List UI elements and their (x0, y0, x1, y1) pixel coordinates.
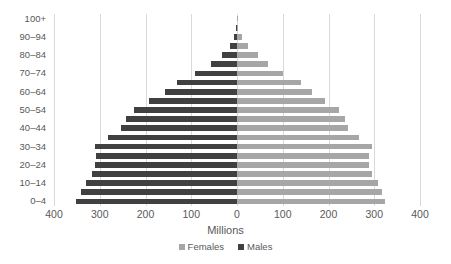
x-axis-label-2: 200 (137, 208, 155, 221)
bar-male-55–59 (149, 98, 237, 104)
legend-item-females[interactable]: Females (179, 241, 224, 252)
bar-male-75–79 (211, 61, 237, 67)
x-axis-label-3: 100 (182, 208, 200, 221)
bar-row (54, 171, 420, 177)
bar-row (54, 25, 420, 31)
bar-female-5–9 (237, 189, 382, 195)
bar-male-70–74 (195, 71, 237, 77)
x-axis-title: Millions (0, 224, 451, 236)
y-axis-label-70–74: 70–74 (20, 68, 46, 78)
bar-female-95–99 (237, 25, 238, 31)
bar-row (54, 89, 420, 95)
bar-male-65–69 (177, 80, 237, 86)
x-axis-label-7: 300 (365, 208, 383, 221)
x-axis-label-5: 100 (274, 208, 292, 221)
bar-female-20–24 (237, 162, 369, 168)
y-axis-label-80–84: 80–84 (20, 50, 46, 60)
x-axis-label-0: 400 (45, 208, 63, 221)
x-axis-label-4: 0 (234, 208, 240, 221)
bar-row (54, 80, 420, 86)
x-axis-label-6: 200 (320, 208, 338, 221)
bar-row (54, 16, 420, 22)
y-axis-label-0–4: 0–4 (30, 196, 46, 206)
bar-male-60–64 (165, 89, 237, 95)
bar-male-20–24 (95, 162, 237, 168)
bar-female-90–94 (237, 34, 242, 40)
plot-area (54, 14, 420, 206)
bar-male-85–89 (230, 43, 237, 49)
legend-label: Females (188, 241, 224, 252)
legend-item-males[interactable]: Males (238, 241, 272, 252)
bar-female-0–4 (237, 199, 385, 205)
bar-female-80–84 (237, 52, 258, 58)
bar-row (54, 98, 420, 104)
bar-male-15–19 (92, 171, 237, 177)
bar-male-10–14 (86, 180, 237, 186)
bar-female-55–59 (237, 98, 325, 104)
bar-row (54, 52, 420, 58)
bar-row (54, 199, 420, 205)
legend-swatch-icon-males (238, 244, 244, 250)
legend-label: Males (247, 241, 272, 252)
bar-female-25–29 (237, 153, 369, 159)
y-axis-label-90–94: 90–94 (20, 32, 46, 42)
x-axis-label-8: 400 (411, 208, 429, 221)
bar-row (54, 135, 420, 141)
y-axis-label-10–14: 10–14 (20, 178, 46, 188)
bar-row (54, 125, 420, 131)
bar-female-30–34 (237, 144, 372, 150)
bar-row (54, 144, 420, 150)
bar-rows (54, 14, 420, 206)
y-axis: 0–410–1420–2430–3440–4450–5460–6470–7480… (0, 14, 50, 206)
bar-male-80–84 (222, 52, 237, 58)
bar-female-10–14 (237, 180, 378, 186)
legend-swatch-icon-females (179, 244, 185, 250)
bar-row (54, 43, 420, 49)
y-axis-label-30–34: 30–34 (20, 142, 46, 152)
bar-female-75–79 (237, 61, 268, 67)
bar-female-85–89 (237, 43, 248, 49)
bar-male-50–54 (134, 107, 237, 113)
bar-row (54, 189, 420, 195)
bar-row (54, 116, 420, 122)
bar-row (54, 153, 420, 159)
x-axis-label-1: 300 (91, 208, 109, 221)
bar-female-15–19 (237, 171, 372, 177)
population-pyramid-chart: 0–410–1420–2430–3440–4450–5460–6470–7480… (0, 0, 451, 264)
y-axis-label-50–54: 50–54 (20, 105, 46, 115)
x-axis: 4003002001000100200300400 (54, 208, 420, 224)
bar-female-35–39 (237, 135, 359, 141)
bar-row (54, 34, 420, 40)
y-axis-label-20–24: 20–24 (20, 160, 46, 170)
bar-female-60–64 (237, 89, 312, 95)
bar-row (54, 107, 420, 113)
bar-male-25–29 (96, 153, 237, 159)
bar-female-70–74 (237, 71, 283, 77)
bar-male-30–34 (95, 144, 237, 150)
y-axis-label-60–64: 60–64 (20, 87, 46, 97)
bar-male-45–49 (126, 116, 237, 122)
bar-row (54, 162, 420, 168)
bar-female-65–69 (237, 80, 301, 86)
chart-legend: FemalesMales (0, 241, 451, 252)
bar-male-35–39 (108, 135, 237, 141)
bar-row (54, 71, 420, 77)
bar-row (54, 61, 420, 67)
bar-row (54, 180, 420, 186)
y-axis-label-100+: 100+ (25, 14, 46, 24)
bar-female-45–49 (237, 116, 345, 122)
bar-male-0–4 (76, 199, 237, 205)
bar-male-40–44 (121, 125, 237, 131)
y-axis-label-40–44: 40–44 (20, 123, 46, 133)
bar-female-50–54 (237, 107, 339, 113)
gridline-400-8 (420, 14, 421, 206)
bar-male-5–9 (81, 189, 237, 195)
bar-female-40–44 (237, 125, 348, 131)
